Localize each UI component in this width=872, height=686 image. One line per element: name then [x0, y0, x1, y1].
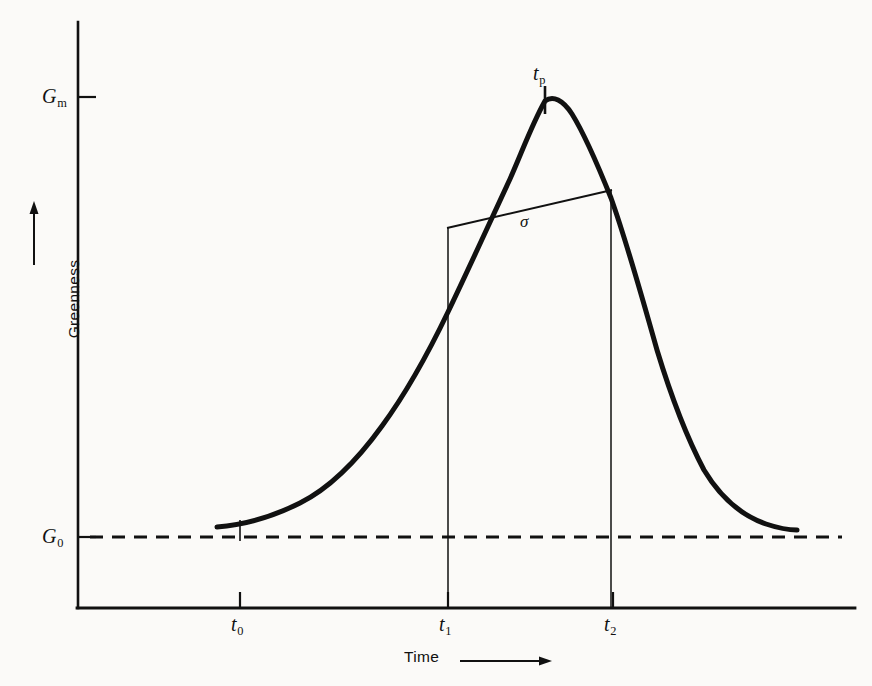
greenness-time-figure: Gm G0 t0 t1 t2 tp σ Greenness Time: [0, 0, 872, 686]
t1-axis-label: t1: [439, 613, 451, 636]
x-axis-title: Time: [404, 648, 439, 666]
tp-peak-label: tp: [533, 62, 545, 85]
sigma-label: σ: [520, 212, 528, 232]
y-axis-title: Greenness: [65, 229, 83, 369]
gm-axis-label: Gm: [42, 85, 66, 108]
plot-canvas: [0, 0, 872, 686]
y-axis-arrow: [30, 201, 39, 265]
greenness-curve: [217, 99, 797, 530]
g0-axis-label: G0: [42, 525, 63, 548]
sigma-slope-line: [447, 190, 612, 228]
x-axis-arrow: [460, 657, 552, 666]
t0-axis-label: t0: [231, 613, 243, 636]
t2-axis-label: t2: [604, 613, 616, 636]
